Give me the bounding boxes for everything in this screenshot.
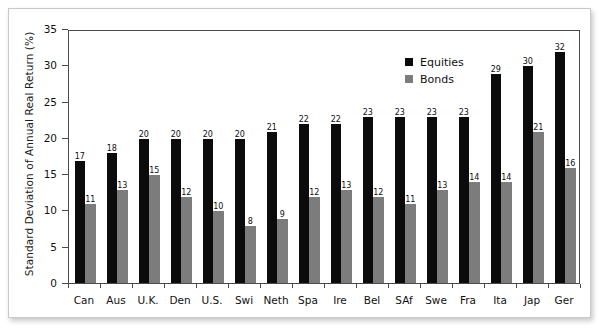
bar-value-equities: 32 <box>551 43 569 52</box>
bar-bonds <box>117 190 128 284</box>
x-tick-mark <box>260 284 261 288</box>
bar-value-equities: 22 <box>295 115 313 124</box>
x-axis-label: Neth <box>260 294 292 306</box>
bar-equities <box>299 124 310 284</box>
x-axis-label: Swi <box>228 294 260 306</box>
x-axis-label: Swe <box>420 294 452 306</box>
bar-value-equities: 30 <box>519 57 537 66</box>
bar-value-equities: 23 <box>423 108 441 117</box>
bar-value-equities: 21 <box>263 123 281 132</box>
bar-bonds <box>405 204 416 284</box>
bar-equities <box>459 117 470 284</box>
bar-equities <box>331 124 342 284</box>
bar-bonds <box>533 132 544 284</box>
x-axis-label: Jap <box>516 294 548 306</box>
legend-item-bonds[interactable]: Bonds <box>405 72 464 86</box>
bar-equities <box>235 139 246 284</box>
y-tick-label: 5 <box>31 241 57 253</box>
chart-legend: EquitiesBonds <box>405 55 464 89</box>
x-tick-mark <box>484 284 485 288</box>
x-axis-label: Bel <box>356 294 388 306</box>
bar-value-equities: 20 <box>167 130 185 139</box>
x-tick-mark <box>164 284 165 288</box>
x-axis-label: Aus <box>100 294 132 306</box>
bar-value-bonds: 12 <box>305 188 323 197</box>
bar-value-equities: 23 <box>359 108 377 117</box>
bar-bonds <box>309 197 320 284</box>
bar-bonds <box>437 190 448 284</box>
x-tick-mark <box>388 284 389 288</box>
x-axis-label: Ita <box>484 294 516 306</box>
y-tick-label: 20 <box>31 132 57 144</box>
y-tick-label: 15 <box>31 168 57 180</box>
x-tick-mark <box>548 284 549 288</box>
bar-value-equities: 17 <box>71 152 89 161</box>
x-axis-label: Den <box>164 294 196 306</box>
bar-value-equities: 18 <box>103 144 121 153</box>
x-axis-label: SAf <box>388 294 420 306</box>
bar-value-bonds: 10 <box>209 202 227 211</box>
bar-value-bonds: 12 <box>369 188 387 197</box>
bar-value-equities: 20 <box>231 130 249 139</box>
x-axis-label: U.S. <box>196 294 228 306</box>
x-tick-mark <box>68 284 69 288</box>
x-axis-label: U.K. <box>132 294 164 306</box>
bar-equities <box>171 139 182 284</box>
bar-value-bonds: 16 <box>561 159 579 168</box>
bar-value-bonds: 9 <box>273 210 291 219</box>
legend-swatch-bonds-icon <box>405 75 413 83</box>
bar-value-bonds: 14 <box>497 173 515 182</box>
bar-bonds <box>213 211 224 284</box>
bar-equities <box>203 139 214 284</box>
x-tick-mark <box>292 284 293 288</box>
bar-bonds <box>341 190 352 284</box>
y-tick-label: 30 <box>31 59 57 71</box>
y-tick-label: 35 <box>31 23 57 35</box>
x-tick-mark <box>324 284 325 288</box>
x-tick-mark <box>228 284 229 288</box>
bar-value-bonds: 13 <box>337 181 355 190</box>
bar-equities <box>427 117 438 284</box>
bar-value-bonds: 13 <box>113 181 131 190</box>
legend-swatch-equities-icon <box>405 58 413 66</box>
bar-equities <box>555 52 566 284</box>
bar-bonds <box>565 168 576 284</box>
bar-equities <box>363 117 374 284</box>
bar-value-equities: 23 <box>391 108 409 117</box>
bar-value-equities: 20 <box>135 130 153 139</box>
bar-value-bonds: 14 <box>465 173 483 182</box>
figure-card: Standard Deviation of Annual Real Return… <box>8 8 591 318</box>
legend-label: Equities <box>420 56 464 69</box>
x-tick-mark <box>580 284 581 288</box>
bar-value-bonds: 21 <box>529 123 547 132</box>
y-tick-label: 10 <box>31 204 57 216</box>
x-tick-mark <box>100 284 101 288</box>
y-tick-label: 25 <box>31 96 57 108</box>
x-tick-mark <box>420 284 421 288</box>
y-tick-label: 0 <box>31 277 57 289</box>
bar-value-bonds: 11 <box>81 195 99 204</box>
bar-bonds <box>245 226 256 284</box>
x-axis-label: Can <box>68 294 100 306</box>
x-tick-mark <box>516 284 517 288</box>
bar-value-bonds: 15 <box>145 166 163 175</box>
x-tick-mark <box>196 284 197 288</box>
x-tick-mark <box>132 284 133 288</box>
bar-value-bonds: 13 <box>433 181 451 190</box>
bar-bonds <box>181 197 192 284</box>
bar-equities <box>75 161 86 284</box>
bar-value-bonds: 12 <box>177 188 195 197</box>
bar-equities <box>523 66 534 284</box>
bar-bonds <box>373 197 384 284</box>
x-axis-label: Fra <box>452 294 484 306</box>
bar-bonds <box>85 204 96 284</box>
x-axis-label: Ger <box>548 294 580 306</box>
bar-bonds <box>469 182 480 284</box>
legend-item-equities[interactable]: Equities <box>405 55 464 69</box>
bar-bonds <box>277 219 288 284</box>
bar-equities <box>107 153 118 284</box>
bar-value-equities: 22 <box>327 115 345 124</box>
legend-label: Bonds <box>420 73 454 86</box>
x-tick-mark <box>356 284 357 288</box>
bar-value-bonds: 11 <box>401 195 419 204</box>
